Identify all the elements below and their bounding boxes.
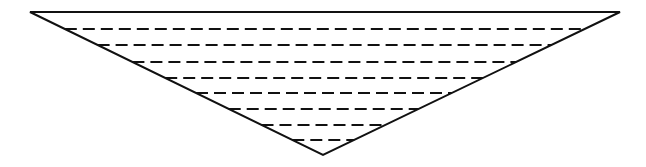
dashed-level-lines — [65, 29, 585, 140]
triangle-outline — [30, 12, 620, 155]
inverted-triangle-diagram — [0, 0, 646, 167]
